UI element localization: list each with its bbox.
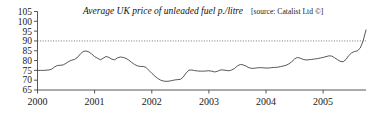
x-tick-label-2001: 2001 — [85, 96, 105, 107]
chart-canvas: Average UK price of unleaded fuel p./lit… — [0, 0, 371, 119]
fuel-price-series — [38, 30, 367, 81]
chart-source-note: [source: Catalist Ltd ©] — [251, 7, 323, 16]
y-tick-label-70: 70 — [23, 75, 33, 85]
y-tick-label-100: 100 — [18, 17, 33, 27]
y-tick-label-95: 95 — [23, 27, 33, 37]
x-axis-ticks — [38, 90, 324, 94]
y-tick-label-90: 90 — [23, 36, 33, 46]
fuel-price-chart: Average UK price of unleaded fuel p./lit… — [0, 0, 371, 119]
y-tick-label-85: 85 — [23, 46, 33, 56]
x-tick-label-2003: 2003 — [199, 96, 219, 107]
y-tick-label-80: 80 — [23, 56, 33, 66]
x-tick-label-2004: 2004 — [256, 96, 276, 107]
x-tick-label-2002: 2002 — [142, 96, 162, 107]
y-tick-label-65: 65 — [23, 85, 33, 95]
y-tick-label-75: 75 — [23, 66, 33, 76]
x-tick-label-2005: 2005 — [313, 96, 333, 107]
y-tick-label-105: 105 — [18, 7, 33, 17]
x-tick-label-2000: 2000 — [28, 96, 48, 107]
y-axis-ticks — [34, 12, 38, 91]
chart-title: Average UK price of unleaded fuel p./lit… — [82, 6, 243, 16]
